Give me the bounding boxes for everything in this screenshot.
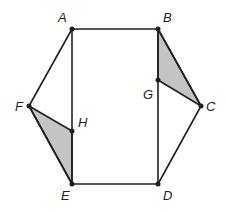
label-c: C [206, 99, 216, 114]
segment-cd [158, 106, 201, 184]
label-h: H [78, 115, 88, 130]
label-b: B [163, 10, 172, 25]
point-e [70, 182, 75, 187]
point-b [156, 27, 161, 32]
hexagon-diagram: A B C D E F G H [0, 0, 226, 212]
label-f: F [15, 99, 24, 114]
label-d: D [163, 188, 172, 203]
point-f [27, 104, 32, 109]
point-d [156, 182, 161, 187]
diagram-canvas: A B C D E F G H [0, 0, 226, 212]
point-g [156, 78, 161, 83]
point-a [70, 27, 75, 32]
label-g: G [143, 87, 153, 102]
label-e: E [61, 188, 70, 203]
segment-fa [29, 29, 72, 106]
point-c [199, 104, 204, 109]
label-a: A [57, 10, 67, 25]
point-h [70, 129, 75, 134]
